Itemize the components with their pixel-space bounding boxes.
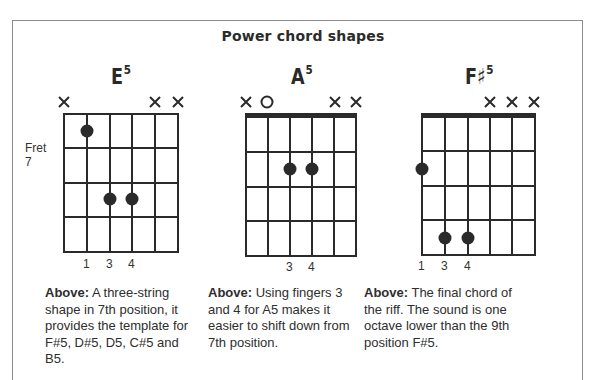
muted-string-icons <box>485 97 539 107</box>
finger-label: 3 <box>441 259 448 273</box>
finger-label: 4 <box>464 259 471 273</box>
fretboard-grid <box>422 115 535 255</box>
finger-label: 1 <box>418 259 425 273</box>
nut <box>421 113 536 118</box>
caption-fsharp5: Above: The final chord of the riff. The … <box>364 285 514 351</box>
